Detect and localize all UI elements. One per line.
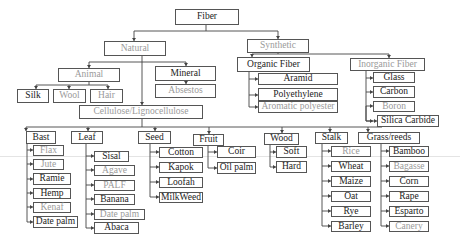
node-inorganic-fiber: Inorganic Fiber (350, 58, 425, 71)
node-seed: Seed (138, 131, 171, 144)
leaf-soft: Soft (276, 146, 307, 158)
leaf-kenaf: Kenaf (33, 202, 71, 213)
node-leaf: Leaf (71, 131, 103, 144)
node-cellulose: Cellulose/Lignocellulose (79, 105, 203, 119)
leaf-oil-palm: Oil palm (217, 162, 256, 174)
leaf-polyethylene: Polyethylene (258, 88, 338, 101)
leaf-date-palm-bast: Date palm (33, 216, 78, 228)
node-grass-reeds: Grass/reeds (358, 132, 420, 144)
leaf-kapok: Kapok (159, 162, 203, 173)
leaf-absestos: Absestos (155, 84, 216, 98)
leaf-flax: Flax (33, 145, 64, 156)
leaf-hair: Hair (90, 89, 123, 103)
node-mineral: Mineral (155, 66, 216, 81)
node-synthetic: Synthetic (247, 39, 309, 53)
leaf-carbon: Carbon (373, 86, 415, 98)
leaf-cotton: Cotton (159, 147, 203, 158)
leaf-rice: Rice (331, 146, 371, 157)
leaf-oat: Oat (331, 191, 371, 202)
leaf-loofah: Loofah (159, 177, 203, 188)
leaf-aramid: Aramid (258, 73, 338, 85)
leaf-date-palm-leaf: Date palm (94, 209, 145, 220)
connector-line (206, 31, 278, 39)
node-bast: Bast (26, 131, 56, 144)
node-animal: Animal (58, 68, 120, 82)
leaf-silk: Silk (17, 89, 49, 103)
leaf-banana: Banana (94, 194, 135, 205)
node-stalk: Stalk (315, 132, 348, 144)
leaf-agave: Agave (94, 165, 135, 176)
leaf-rye: Rye (331, 206, 371, 217)
leaf-rape: Rape (389, 191, 429, 202)
node-wood: Wood (264, 133, 299, 145)
leaf-wool: Wool (53, 89, 86, 103)
leaf-milkweed: MilkWeed (159, 192, 203, 203)
leaf-hard: Hard (276, 161, 307, 173)
connector-line (134, 25, 206, 41)
node-organic-fiber: Organic Fiber (237, 57, 310, 72)
leaf-esparto: Esparto (389, 206, 429, 217)
leaf-corn: Corn (389, 176, 429, 187)
leaf-hemp: Hemp (33, 188, 71, 199)
leaf-glass: Glass (373, 72, 415, 83)
leaf-ramie: Ramie (33, 173, 71, 185)
leaf-sisal: Sisal (94, 151, 129, 162)
leaf-wheat: Wheat (331, 161, 371, 172)
leaf-barley: Barley (331, 221, 371, 232)
leaf-maize: Maize (331, 176, 371, 187)
leaf-silica-carbide: Silica Carbide (377, 115, 439, 127)
leaf-abaca: Abaca (94, 222, 139, 234)
leaf-aromatic-polyester: Aromatic polyester (258, 101, 338, 113)
leaf-palf: PALF (94, 180, 135, 191)
node-natural: Natural (104, 41, 166, 56)
fiber-classification-diagram: Fiber Natural Synthetic Animal Mineral S… (0, 0, 460, 248)
leaf-boron: Boron (373, 101, 415, 112)
node-fruit: Fruit (193, 134, 224, 146)
leaf-canery: Canery (389, 221, 429, 232)
leaf-coir: Coir (217, 146, 256, 158)
node-fiber: Fiber (175, 9, 239, 25)
leaf-bagasse: Bagasse (389, 161, 429, 172)
leaf-bamboo: Bamboo (389, 146, 429, 157)
leaf-jute: Jute (33, 159, 64, 170)
